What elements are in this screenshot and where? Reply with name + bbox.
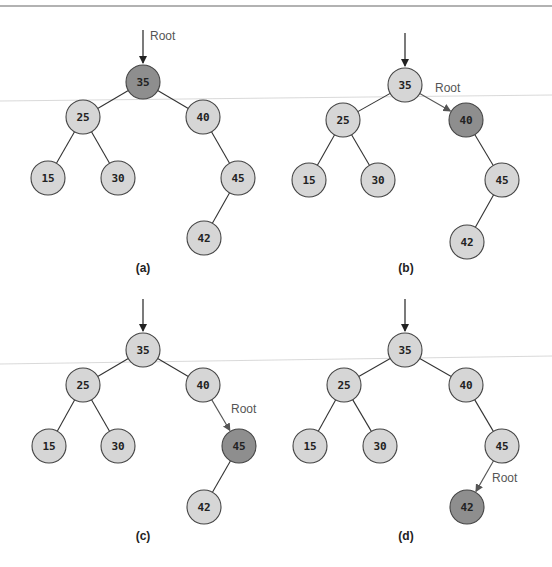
tree-node-25: 25 [327,368,361,402]
tree-edge [318,400,335,431]
node-key: 40 [459,114,472,127]
tree-edge [98,359,129,377]
bst-search-figure: 35254015304542Root(a)35254015304542Root(… [0,0,552,567]
tree-node-15: 15 [292,163,326,197]
panel-caption: (d) [398,529,413,543]
tree-node-25: 25 [66,368,100,402]
tree-node-35: 35 [126,333,160,367]
root-label: Root [150,29,176,43]
root-pointer-arrow [476,461,494,492]
panel-b: 35254015304542Root(b) [292,33,519,275]
tree-node-42: 42 [187,490,221,524]
panel-caption: (a) [136,261,151,275]
tree-edge [420,358,452,376]
node-key: 45 [495,174,508,187]
tree-node-15: 15 [31,161,65,195]
node-key: 30 [111,172,124,185]
node-key: 25 [337,379,350,392]
tree-edge [91,400,109,432]
node-key: 42 [197,501,210,514]
scan-line-bottom [0,356,552,364]
tree-node-40: 40 [449,368,483,402]
tree-node-40: 40 [186,368,220,402]
tree-node-35: 35 [388,68,422,102]
tree-edge [91,132,109,164]
tree-node-30: 30 [101,161,135,195]
node-key: 15 [42,440,55,453]
node-key: 40 [196,379,209,392]
tree-node-45: 45 [221,161,255,195]
tree-edge [57,400,74,431]
panel-caption: (b) [398,261,413,275]
node-key: 15 [303,440,316,453]
tree-edge [56,132,74,164]
tree-node-35: 35 [388,333,422,367]
tree-node-42: 42 [187,221,221,255]
node-key: 42 [460,236,473,249]
node-key: 25 [336,114,349,127]
node-key: 30 [371,174,384,187]
node-key: 35 [136,76,149,89]
tree-node-30: 30 [363,429,397,463]
tree-edge [475,135,494,166]
tree-edge [352,135,370,166]
tree-edge [475,195,493,227]
tree-node-45: 45 [485,163,519,197]
tree-node-45: 45 [222,429,256,463]
tree-edge [317,135,334,165]
node-key: 35 [136,344,149,357]
tree-node-45: 45 [485,429,519,463]
node-key: 42 [460,501,473,514]
root-label: Root [492,471,518,485]
tree-edge [359,358,391,376]
tree-edge [358,93,390,111]
node-key: 42 [197,232,210,245]
tree-node-25: 25 [66,100,100,134]
node-key: 45 [495,440,508,453]
panel-c: 35254015304542Root(c) [32,299,257,543]
node-key: 40 [459,379,472,392]
panel-caption: (c) [136,529,151,543]
root-label: Root [231,402,257,416]
node-key: 30 [111,440,124,453]
node-key: 25 [76,379,89,392]
panel-d: 35254015304542Root(d) [293,299,519,543]
node-key: 30 [373,440,386,453]
tree-node-30: 30 [361,163,395,197]
panel-a: 35254015304542Root(a) [31,29,255,275]
tree-edge [353,400,372,432]
tree-edge [211,132,229,164]
tree-node-25: 25 [326,103,360,137]
node-key: 15 [41,172,54,185]
tree-edge [212,461,230,493]
tree-edge [475,400,494,432]
tree-node-42: 42 [450,225,484,259]
tree-node-42: 42 [450,490,484,524]
tree-node-30: 30 [101,429,135,463]
root-pointer-arrow [212,400,230,431]
tree-node-15: 15 [32,429,66,463]
tree-node-35: 35 [126,65,160,99]
node-key: 35 [398,79,411,92]
tree-edge [212,193,229,223]
tree-node-40: 40 [449,103,483,137]
root-label: Root [435,81,461,95]
node-key: 40 [196,111,209,124]
node-key: 45 [231,172,244,185]
node-key: 45 [232,440,245,453]
node-key: 15 [302,174,315,187]
node-key: 35 [398,344,411,357]
node-key: 25 [76,111,89,124]
tree-node-40: 40 [186,100,220,134]
tree-node-15: 15 [293,429,327,463]
